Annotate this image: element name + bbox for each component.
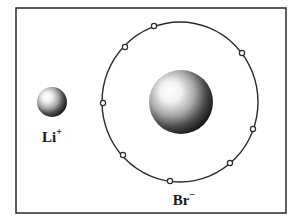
bromide-symbol: Br: [173, 192, 190, 208]
lithium-ion-label: Li+: [42, 127, 62, 146]
electron-dot: [122, 44, 127, 49]
lithium-symbol: Li: [42, 129, 56, 145]
diagram-canvas: Li+ Br−: [0, 0, 296, 222]
bromide-charge: −: [189, 189, 195, 200]
bromide-ion-label: Br−: [173, 190, 195, 209]
ionic-diagram-svg: [0, 0, 296, 222]
electron-dot: [167, 178, 172, 183]
electron-dot: [239, 50, 244, 55]
bromide-ion-sphere: [149, 70, 213, 134]
electron-dot: [151, 23, 156, 28]
electron-dot: [250, 126, 255, 131]
electron-dot: [100, 100, 105, 105]
electron-dot: [120, 152, 125, 157]
lithium-ion-sphere: [37, 87, 67, 117]
electron-dot: [227, 160, 232, 165]
lithium-charge: +: [56, 126, 62, 137]
